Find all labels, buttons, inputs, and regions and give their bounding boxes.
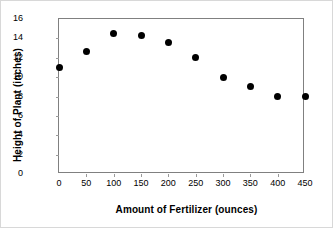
y-tick-label: 6 [1,111,23,120]
data-point [165,39,172,46]
data-point [247,83,254,90]
x-tick-mark [278,174,279,177]
y-tick-mark [56,58,59,59]
x-tick-mark [168,174,169,177]
y-tick-label: 4 [1,130,23,139]
x-tick-mark [141,174,142,177]
y-tick-label: 12 [1,53,23,62]
y-tick-mark [56,38,59,39]
data-point [110,30,117,37]
plot-area: 0246810121416 05010015020025030035040045… [58,18,304,173]
x-axis-title: Amount of Fertilizer (ounces) [49,204,324,215]
data-point [220,74,227,81]
y-tick-mark [56,116,59,117]
data-point [274,93,281,100]
x-tick-mark [196,174,197,177]
data-point [302,93,309,100]
y-tick-mark [56,97,59,98]
x-tick-mark [114,174,115,177]
y-tick-mark [56,77,59,78]
y-tick-label: 14 [1,33,23,42]
data-point [192,54,199,61]
y-tick-mark [56,135,59,136]
y-tick-label: 0 [1,169,23,178]
y-tick-mark [56,155,59,156]
x-tick-mark [86,174,87,177]
y-tick-label: 16 [1,14,23,23]
data-point [56,64,63,71]
data-point [138,32,145,39]
x-tick-label: 450 [285,179,325,188]
y-tick-label: 8 [1,92,23,101]
x-tick-mark [223,174,224,177]
x-tick-mark [250,174,251,177]
y-tick-label: 2 [1,150,23,159]
y-tick-label: 10 [1,72,23,81]
chart-figure: Height of Plant (inches) 0246810121416 0… [0,0,333,228]
data-point [83,48,90,55]
